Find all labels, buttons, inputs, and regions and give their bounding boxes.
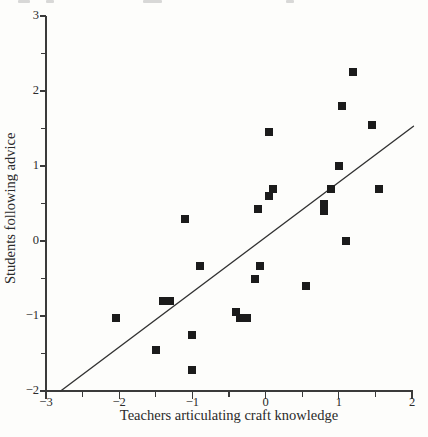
data-point — [342, 237, 350, 245]
y-axis-tick — [40, 165, 47, 166]
data-point — [188, 331, 196, 339]
data-point — [196, 262, 204, 270]
data-point — [112, 314, 120, 322]
y-tick-label: 1 — [8, 158, 39, 173]
y-axis-tick — [41, 203, 46, 204]
x-axis-tick — [375, 392, 376, 397]
data-point — [166, 297, 174, 305]
x-axis-tick — [228, 392, 229, 397]
y-tick-label: 0 — [8, 233, 39, 248]
data-point — [375, 185, 383, 193]
x-tick-label: −2 — [102, 395, 136, 410]
data-point — [327, 185, 335, 193]
x-tick-label: −1 — [175, 395, 209, 410]
y-axis-tick — [40, 90, 47, 91]
data-point — [320, 207, 328, 215]
y-tick-label: −2 — [8, 383, 39, 398]
x-axis-tick — [155, 392, 156, 397]
y-tick-label: 3 — [8, 8, 39, 23]
data-point — [338, 102, 346, 110]
y-axis-tick — [40, 315, 47, 316]
data-point — [251, 275, 259, 283]
y-axis-tick — [40, 390, 47, 391]
data-point — [265, 192, 273, 200]
data-point — [335, 162, 343, 170]
data-point — [368, 121, 376, 129]
data-point — [254, 205, 262, 213]
data-point — [256, 262, 264, 270]
data-point — [302, 282, 310, 290]
y-axis-tick — [40, 15, 47, 16]
x-tick-label: 2 — [395, 395, 428, 410]
x-tick-label: 1 — [322, 395, 356, 410]
y-axis-tick — [41, 53, 46, 54]
data-point — [181, 215, 189, 223]
data-point — [188, 366, 196, 374]
data-point — [349, 68, 357, 76]
y-axis-tick — [41, 128, 46, 129]
data-point — [243, 314, 251, 322]
data-point — [152, 346, 160, 354]
y-tick-label: 2 — [8, 83, 39, 98]
data-point — [265, 128, 273, 136]
x-axis-tick — [82, 392, 83, 397]
x-axis-tick — [302, 392, 303, 397]
y-tick-label: −1 — [8, 308, 39, 323]
x-tick-label: 0 — [249, 395, 283, 410]
y-axis-tick — [41, 278, 46, 279]
y-axis-tick — [41, 353, 46, 354]
y-axis-tick — [40, 240, 47, 241]
scatter-plot-figure: Students following advice Teachers artic… — [0, 0, 428, 437]
trend-line — [0, 0, 428, 437]
